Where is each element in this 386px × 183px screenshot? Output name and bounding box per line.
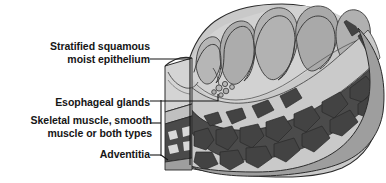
esophagus-wall-body — [165, 4, 386, 177]
label-skeletal-muscle-smooth-muscle-or-both-types: Skeletal muscle, smooth muscle or both t… — [0, 114, 152, 139]
gland-acinus — [222, 81, 227, 86]
label-adventitia: Adventitia — [0, 148, 150, 161]
gland-acinus — [219, 93, 223, 97]
gland-acinus — [212, 90, 217, 95]
label-line-1: Skeletal muscle, smooth — [0, 114, 152, 127]
gland-acinus — [230, 85, 235, 90]
gland-acinus — [223, 88, 229, 94]
gland-acinus — [216, 85, 222, 91]
label-line-2: moist epithelium — [0, 53, 150, 66]
label-line-1: Adventitia — [0, 148, 150, 161]
label-line-1: Esophageal glands — [0, 96, 150, 109]
label-line-1: Stratified squamous — [0, 40, 150, 53]
label-esophageal-glands: Esophageal glands — [0, 96, 150, 109]
figure-canvas: Stratified squamous moist epithelium Eso… — [0, 0, 386, 183]
cut-face-muscle — [165, 116, 192, 162]
label-line-2: muscle or both types — [0, 127, 152, 140]
label-stratified-squamous-moist-epithelium: Stratified squamous moist epithelium — [0, 40, 150, 65]
